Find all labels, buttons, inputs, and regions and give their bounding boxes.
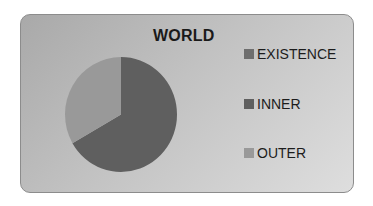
legend-swatch-inner (244, 99, 254, 109)
legend-item-inner: INNER (244, 96, 301, 112)
legend-item-outer: OUTER (244, 145, 306, 161)
chart-title: WORLD (153, 27, 214, 45)
legend-swatch-outer (244, 148, 254, 158)
pie-chart (64, 56, 178, 173)
pie-slices (65, 57, 177, 172)
legend-swatch-existence (244, 49, 254, 59)
legend-item-existence: EXISTENCE (244, 46, 336, 62)
legend-label-inner: INNER (257, 96, 301, 112)
legend-label-outer: OUTER (257, 145, 306, 161)
legend-label-existence: EXISTENCE (257, 46, 336, 62)
